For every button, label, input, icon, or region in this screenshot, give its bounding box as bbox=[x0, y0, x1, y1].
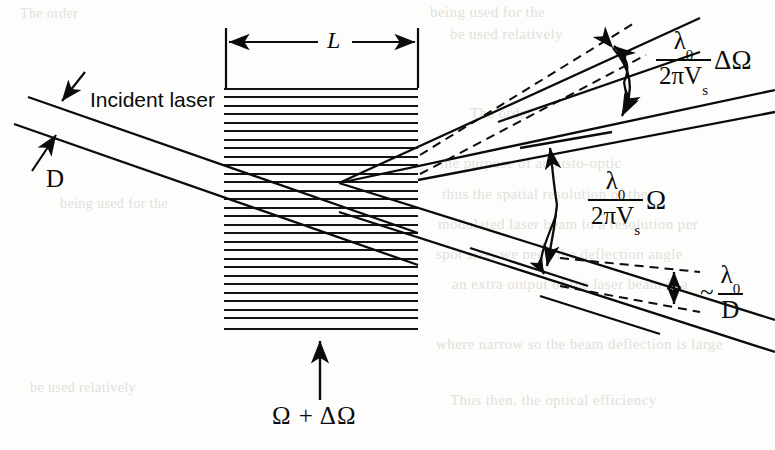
formula-diffraction-limit: ~ λ0 D bbox=[700, 262, 743, 322]
diffracted-beam-upper-dashed-envelope bbox=[420, 22, 646, 174]
incident-laser-leader-arrow bbox=[62, 72, 85, 101]
aperture-D-label: D bbox=[46, 165, 64, 193]
limit-dash-upper bbox=[560, 258, 700, 272]
lower-ray-inner-a bbox=[470, 248, 588, 286]
formula-diffraction-limit-prefix: ~ bbox=[700, 278, 718, 306]
formula-delta-omega-denominator: 2πVs bbox=[656, 61, 711, 93]
incident-ray-lower bbox=[14, 124, 418, 265]
formula-delta-omega-spread: λ0 2πVs ΔΩ bbox=[656, 28, 751, 93]
figure-canvas: being used for the be used relatively Th… bbox=[0, 0, 775, 450]
formula-delta-omega-numerator: λ0 bbox=[671, 28, 697, 59]
formula-omega-denominator: 2πVs bbox=[588, 201, 643, 233]
formula-diffraction-limit-fraction: λ0 D bbox=[718, 262, 744, 322]
formula-delta-omega-fraction: λ0 2πVs bbox=[656, 28, 711, 93]
formula-diffraction-limit-numerator: λ0 bbox=[718, 262, 744, 293]
diffracted-beam-middle bbox=[339, 90, 775, 183]
upper-dash-a bbox=[420, 22, 636, 155]
diffraction-limit-dashed-envelope bbox=[560, 258, 700, 312]
acoustic-grating-hatch bbox=[224, 89, 418, 329]
cell-length-dimension bbox=[226, 28, 418, 88]
formula-omega-deflection: λ0 2πVs Ω bbox=[588, 168, 666, 233]
formula-omega-tail: Ω bbox=[643, 185, 666, 216]
formula-delta-omega-tail: ΔΩ bbox=[711, 45, 751, 76]
formula-omega-fraction: λ0 2πVs bbox=[588, 168, 643, 233]
cell-length-L-label: L bbox=[327, 27, 340, 54]
middle-ray-upper bbox=[339, 90, 775, 183]
incident-laser-label: Incident laser bbox=[90, 88, 215, 112]
upper-dash-b bbox=[420, 55, 646, 174]
formula-omega-numerator: λ0 bbox=[603, 168, 629, 199]
acoustic-drive-label: Ω + ΔΩ bbox=[272, 402, 356, 430]
formula-diffraction-limit-denominator: D bbox=[718, 295, 742, 322]
